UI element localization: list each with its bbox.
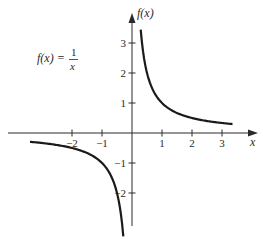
curve-negative-branch — [30, 142, 123, 237]
x-tick-label: 1 — [159, 137, 165, 149]
curve-positive-branch — [141, 30, 233, 124]
annotation-denominator: x — [69, 60, 75, 72]
x-axis-ticks: −2−1123 — [66, 130, 225, 150]
y-tick-label: 1 — [121, 97, 127, 109]
y-axis-arrow-icon — [129, 13, 136, 23]
x-tick-label: −1 — [96, 137, 108, 149]
annotation-lhs: f(x) = — [37, 51, 65, 65]
function-annotation: f(x) = 1 x — [37, 46, 78, 72]
x-tick-label: 2 — [189, 137, 195, 149]
y-axis-label: f(x) — [137, 6, 154, 20]
y-tick-label: −1 — [114, 157, 126, 169]
y-tick-label: 2 — [121, 67, 127, 79]
y-tick-label: 3 — [121, 37, 127, 49]
annotation-numerator: 1 — [71, 46, 77, 58]
graph-of-reciprocal-function: −2−1123 321−1−2 x f(x) f(x) = 1 x — [0, 0, 263, 239]
x-axis-label: x — [249, 135, 256, 149]
x-tick-label: 3 — [219, 137, 225, 149]
